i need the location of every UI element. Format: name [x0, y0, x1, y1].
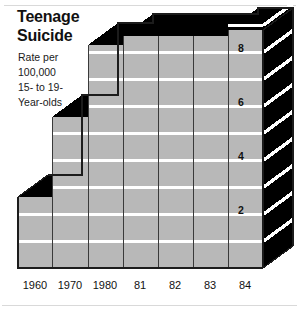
bar-front-81: [123, 36, 158, 268]
chart-subtitle-line-1: Rate per: [18, 51, 58, 63]
y-tick-label-6: 6: [238, 96, 244, 108]
bar-front-82: [158, 36, 193, 268]
chart-plot-area: [0, 0, 299, 312]
bar-front-84: [228, 30, 263, 268]
chart-title-line-2: Suicide: [17, 27, 73, 44]
y-tick-label-8: 8: [238, 42, 244, 54]
chart-subtitle-line-3: 15- to 19-: [18, 81, 63, 93]
chart-subtitle-line-4: Year-olds: [18, 96, 62, 108]
bar-front-1960: [18, 197, 52, 268]
bar-front-83: [193, 36, 228, 268]
chart-title-line-1: Teenage: [17, 8, 79, 25]
y-tick-label-4: 4: [238, 150, 244, 162]
x-tick-label-84: 84: [223, 279, 267, 291]
y-tick-label-2: 2: [238, 204, 244, 216]
chart-subtitle-line-2: 100,000: [18, 66, 56, 78]
chart-figure: TeenageSuicide Rate per100,00015- to 19-…: [0, 0, 299, 312]
chart-subtitle: Rate per100,00015- to 19-Year-olds: [18, 50, 63, 110]
chart-title: TeenageSuicide: [17, 8, 79, 45]
